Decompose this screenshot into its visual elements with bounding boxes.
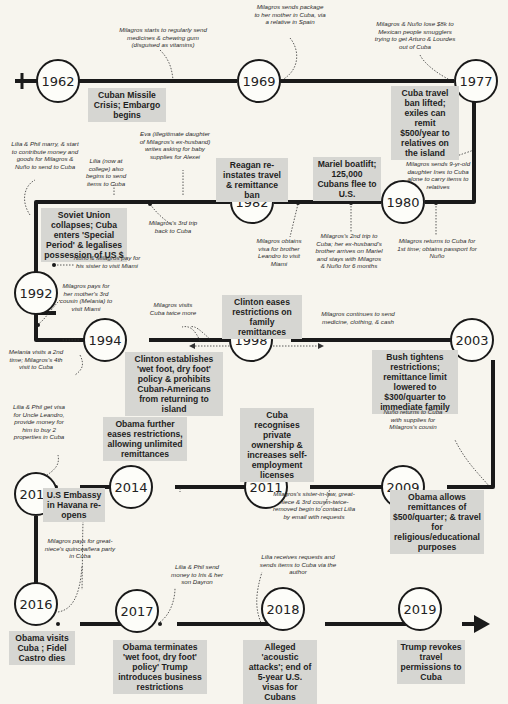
year-node-2019: 2019 — [398, 587, 442, 631]
note-email-requests: Milagros's sister-in-law, great-niece & … — [272, 490, 356, 520]
note-nuno-returns: Nuño returns to Cuba with supplies for M… — [383, 408, 443, 431]
note-iris-dayron: Lilia & Phil send money to Iris & her so… — [169, 563, 225, 586]
note-medicines: Milagros starts to regularly send medici… — [118, 26, 208, 49]
note-package: Milagros sends package to her mother in … — [254, 3, 326, 26]
event-2019: Trump revokes travel permissions to Cuba — [397, 640, 465, 684]
event-2018: Alleged 'acoustic attacks'; end of 5-yea… — [243, 640, 317, 704]
event-1998: Clinton eases restrictions on family rem… — [222, 295, 302, 339]
year-node-1977: 1977 — [454, 59, 498, 103]
event-2003: Bush tightens restrictions; remittance l… — [372, 350, 458, 414]
note-lilia-phil-marry: Lilia & Phil marry, & start to contribut… — [10, 140, 80, 170]
note-lilia-college: Lilia (now at college) also begins to se… — [83, 157, 129, 187]
note-uncle-leandro: Lilia & Phil get visa for Uncle Leandro,… — [10, 403, 68, 441]
year-node-1992: 1992 — [14, 271, 58, 315]
event-1994: Clinton establishes 'wet foot, dry foot'… — [125, 352, 223, 416]
note-first-return: Milagros returns to Cuba for 1st time; o… — [397, 237, 477, 260]
note-eva: Eva (illegitimate daughter of Milagros's… — [138, 130, 212, 160]
event-2016: Obama visits Cuba ; Fidel Castro dies — [9, 631, 75, 665]
event-1982: Reagan re-instates travel & remittance b… — [216, 158, 288, 202]
note-leandro-visa: Milagros obtains visa for brother Leandr… — [252, 237, 306, 267]
event-1962: Cuban Missile Crisis; Embargo begins — [88, 88, 166, 122]
year-node-2016: 2016 — [14, 582, 58, 626]
note-melania-second: Melania visits a 2nd time; Milagros's 4t… — [8, 348, 64, 371]
event-1980: Mariel boatlift; 125,000 Cubans flee to … — [313, 157, 381, 201]
event-2015: U.S Embassy in Havana re-opens — [43, 488, 105, 522]
note-quinceanera: Milagros pays for great-niece's quinceañ… — [44, 537, 116, 560]
note-second-trip: Milagros's 2nd trip to Cuba; her ex-husb… — [314, 232, 384, 270]
event-2014: Obama further eases restrictions, allowi… — [103, 417, 187, 461]
year-node-1994: 1994 — [83, 318, 127, 362]
note-smugglers: Milagros & Nuño lose $8k to Mexican peop… — [370, 20, 460, 50]
event-1977: Cuba travel ban lifted; exiles can remit… — [391, 86, 459, 160]
event-2017: Obama terminates 'wet foot, dry foot' po… — [113, 640, 207, 694]
note-sister-visit: Nuño & Milagros pay for his sister to vi… — [72, 254, 142, 269]
year-node-2017: 2017 — [115, 589, 159, 633]
year-node-2014: 2014 — [109, 465, 153, 509]
year-node-1962: 1962 — [36, 59, 80, 103]
note-lilia-receives: Lilia receives requests and sends items … — [258, 553, 338, 576]
note-melania-visit: Milagros pays for her mother's 3rd cousi… — [58, 282, 114, 312]
note-twice-more: Milagros visits Cuba twice more — [146, 301, 200, 316]
note-ines: Milagros sends 9-yr-old daughter Ines to… — [403, 160, 473, 190]
note-continues: Milagros continues to send medicine, clo… — [318, 310, 398, 325]
event-2011: Cuba recognises private ownership & incr… — [240, 408, 314, 482]
year-node-1969: 1969 — [237, 59, 281, 103]
year-node-2018: 2018 — [261, 587, 305, 631]
note-third-trip: Milagros's 3rd trip back to Cuba — [148, 219, 198, 234]
event-2009: Obama allows remittances of $500/quarter… — [390, 490, 484, 554]
